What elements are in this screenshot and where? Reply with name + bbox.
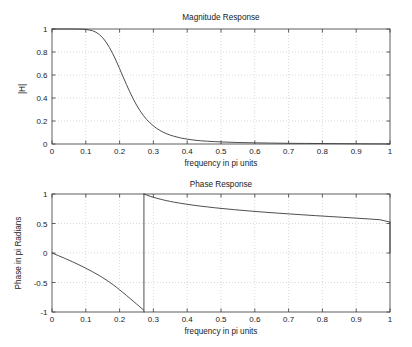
- y-tick-label: 0: [43, 249, 48, 258]
- x-tick-label: 0.1: [80, 315, 92, 324]
- phase-response-title: Phase Response: [190, 180, 253, 189]
- y-tick-label: 0.4: [36, 94, 48, 103]
- x-tick-label: 0.2: [114, 147, 126, 156]
- x-tick-label: 0.9: [351, 147, 363, 156]
- x-tick-label: 0.3: [148, 147, 160, 156]
- x-tick-label: 0.3: [148, 315, 160, 324]
- y-tick-label: -1: [40, 308, 48, 317]
- figure-container: 00.10.20.30.40.50.60.70.80.9100.20.40.60…: [0, 0, 412, 347]
- x-tick-label: 0: [50, 147, 55, 156]
- magnitude-response-ylabel: |H|: [18, 84, 27, 94]
- x-tick-label: 0.8: [317, 147, 329, 156]
- y-tick-label: 0.8: [36, 48, 48, 57]
- x-tick-label: 0.9: [351, 315, 363, 324]
- phase-response-xlabel: frequency in pi units: [185, 327, 258, 336]
- magnitude-response-title: Magnitude Response: [182, 13, 260, 22]
- plots-svg-canvas: 00.10.20.30.40.50.60.70.80.9100.20.40.60…: [0, 0, 412, 347]
- x-tick-label: 0: [50, 315, 55, 324]
- x-tick-label: 0.2: [114, 315, 126, 324]
- y-tick-label: 0.5: [36, 220, 48, 229]
- y-tick-label: 0.6: [36, 71, 48, 80]
- y-tick-label: 0: [43, 140, 48, 149]
- x-tick-label: 0.1: [80, 147, 92, 156]
- x-tick-label: 0.7: [283, 315, 295, 324]
- x-tick-label: 0.4: [182, 315, 194, 324]
- y-tick-label: 0.2: [36, 117, 48, 126]
- x-tick-label: 0.6: [249, 147, 261, 156]
- x-tick-label: 0.4: [182, 147, 194, 156]
- x-tick-label: 0.8: [317, 315, 329, 324]
- y-tick-label: -0.5: [34, 279, 48, 288]
- x-tick-label: 0.5: [215, 147, 227, 156]
- x-tick-label: 1: [388, 315, 393, 324]
- y-tick-label: 1: [43, 25, 48, 34]
- x-tick-label: 0.5: [215, 315, 227, 324]
- x-tick-label: 1: [388, 147, 393, 156]
- magnitude-response-xlabel: frequency in pi units: [185, 159, 258, 168]
- x-tick-label: 0.6: [249, 315, 261, 324]
- y-tick-label: 1: [43, 190, 48, 199]
- x-tick-label: 0.7: [283, 147, 295, 156]
- phase-response-ylabel: Phase in pi Radians: [14, 217, 23, 290]
